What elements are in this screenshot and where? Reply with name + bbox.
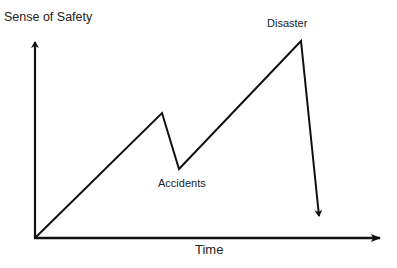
y-axis-label: Sense of Safety [4,10,92,24]
x-axis-label: Time [195,242,223,257]
accidents-annotation: Accidents [158,177,206,189]
disaster-annotation: Disaster [267,17,307,29]
safety-line [35,41,319,238]
safety-diagram [0,0,397,268]
